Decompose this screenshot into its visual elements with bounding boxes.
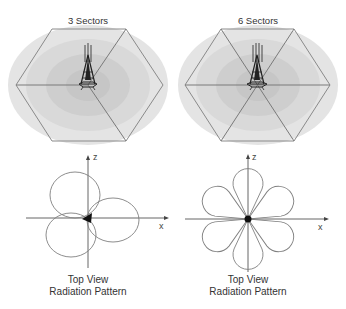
x-axis-label: x — [159, 221, 164, 231]
radiation-lobe — [50, 172, 100, 218]
panel-title: 6 Sectors — [238, 15, 278, 26]
caption-line-2: Radiation Pattern — [49, 286, 126, 297]
radiation-lobe — [87, 198, 139, 242]
sector-diagram: 3 Sectors 6 Sectors — [0, 0, 346, 309]
x-axis-arrow-icon — [164, 216, 169, 220]
x-axis-label: x — [318, 222, 323, 232]
z-axis-arrow-icon — [86, 155, 90, 160]
panel-title: 3 Sectors — [68, 15, 108, 26]
antenna-origin-marker-icon — [245, 216, 252, 223]
radiation-lobe — [197, 181, 256, 232]
radiation-lobe — [241, 206, 300, 257]
radiation-lobe — [241, 181, 300, 232]
z-axis-label: z — [93, 152, 98, 162]
cell-3-sectors: 3 Sectors — [8, 15, 168, 145]
z-axis-label: z — [252, 152, 257, 162]
radiation-pattern-3: z x Top View Radiation Pattern — [26, 152, 169, 297]
caption-line-2: Radiation Pattern — [209, 286, 286, 297]
x-axis-arrow-icon — [324, 217, 329, 221]
caption-line-1: Top View — [228, 274, 269, 285]
cell-6-sectors: 6 Sectors — [178, 15, 338, 145]
z-axis-arrow-icon — [246, 154, 250, 159]
caption-line-1: Top View — [68, 274, 109, 285]
radiation-pattern-6: z x Top View Radiation Pattern — [185, 152, 329, 297]
radiation-lobe — [197, 206, 256, 257]
